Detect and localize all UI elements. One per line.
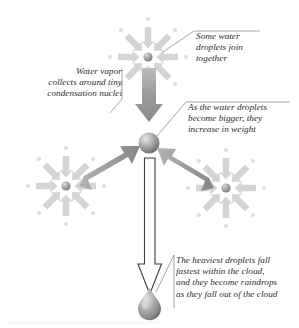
scan-artifact (8, 322, 158, 323)
leader-line-vapor (110, 99, 122, 113)
caption-heaviest-fall: The heaviest droplets fall fastest withi… (176, 255, 296, 300)
caption-droplets-join: Some water droplets join together (196, 31, 292, 65)
downward-merge-arrow (135, 68, 163, 122)
water-cycle-diagram: Water vapor collects around tiny condens… (0, 0, 299, 328)
left-nucleus-starburst (26, 146, 106, 226)
leader-line-heavy (156, 255, 174, 292)
caption-increase-weight: As the water droplets become bigger, the… (188, 102, 296, 136)
leader-line-bigger (157, 102, 186, 136)
falling-raindrop (138, 288, 161, 320)
center-water-droplet (139, 133, 160, 154)
rainfall-outline-arrow (138, 158, 162, 294)
right-nucleus-starburst (186, 148, 266, 228)
caption-water-vapor: Water vapor collects around tiny condens… (10, 66, 122, 100)
